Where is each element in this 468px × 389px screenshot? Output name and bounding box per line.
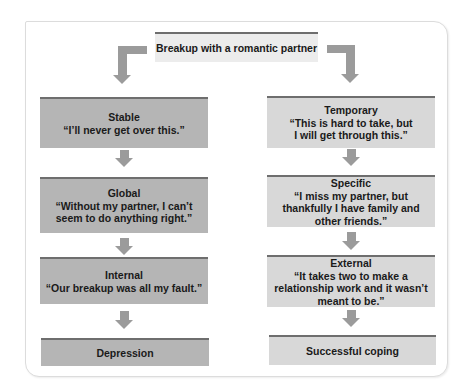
node-quote: “I miss my partner, but thankfully I hav… — [267, 190, 435, 228]
node-quote: “Our breakup was all my fault.” — [46, 282, 202, 295]
node-title: Global — [108, 187, 141, 200]
node-temporary: Temporary “This is hard to take, but I w… — [267, 96, 435, 148]
root-label: Breakup with a romantic partner — [156, 42, 317, 55]
node-title: Temporary — [324, 104, 378, 117]
arrow-down-icon — [347, 232, 356, 242]
outcome-label: Depression — [96, 347, 153, 360]
node-title: External — [330, 257, 371, 270]
node-external: External “It takes two to make a relatio… — [267, 255, 435, 307]
arrow-down-icon — [347, 310, 356, 319]
node-title: Stable — [108, 111, 140, 124]
outcome-label: Successful coping — [306, 345, 399, 358]
node-internal: Internal “Our breakup was all my fault.” — [40, 257, 208, 304]
node-title: Specific — [331, 177, 371, 190]
outcome-depression: Depression — [41, 338, 209, 366]
node-title: Internal — [105, 269, 143, 282]
node-quote: “This is hard to take, but I will get th… — [267, 117, 435, 142]
node-global: Global “Without my partner, I can’t seem… — [40, 177, 208, 233]
node-quote: “Without my partner, I can’t seem to do … — [40, 200, 208, 225]
node-specific: Specific “I miss my partner, but thankfu… — [267, 175, 435, 227]
outcome-successful-coping: Successful coping — [269, 335, 436, 365]
arrow-down-icon — [120, 238, 129, 247]
arrow-down-icon — [120, 150, 129, 159]
node-quote: “I’ll never get over this.” — [63, 124, 184, 137]
arrow-down-icon — [120, 311, 129, 321]
root-node: Breakup with a romantic partner — [155, 32, 318, 62]
arrow-down-icon — [347, 149, 356, 158]
node-stable: Stable “I’ll never get over this.” — [40, 97, 208, 148]
node-quote: “It takes two to make a relationship wor… — [267, 270, 435, 308]
